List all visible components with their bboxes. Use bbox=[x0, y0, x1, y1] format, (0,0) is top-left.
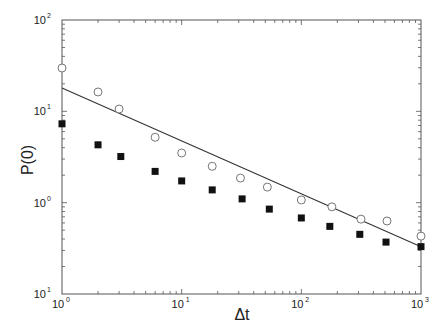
x-tick-label: 10 bbox=[172, 298, 184, 310]
data-point-circle bbox=[297, 196, 305, 204]
x-tick-exponent: 0 bbox=[66, 296, 70, 303]
data-point-circle bbox=[236, 174, 244, 182]
data-point-square bbox=[418, 243, 425, 250]
y-tick-label: 10 bbox=[34, 288, 46, 300]
y-tick-label: 10 bbox=[34, 105, 46, 117]
y-tick-exponent: 1 bbox=[47, 103, 51, 110]
data-point-square bbox=[266, 206, 273, 213]
data-point-circle bbox=[417, 232, 425, 240]
chart: 100101102103 102101100101 Δt P(0) bbox=[0, 0, 444, 334]
x-axis-title: Δt bbox=[234, 306, 250, 323]
x-tick-exponent: 3 bbox=[425, 296, 429, 303]
data-point-square bbox=[178, 177, 185, 184]
data-point-circle bbox=[357, 215, 365, 223]
data-point-circle bbox=[151, 133, 159, 141]
y-tick-labels: 102101100101 bbox=[34, 12, 51, 300]
data-point-square bbox=[209, 186, 216, 193]
x-tick-label: 10 bbox=[291, 298, 303, 310]
data-point-circle bbox=[58, 64, 66, 72]
data-point-square bbox=[59, 120, 66, 127]
y-axis-title: P(0) bbox=[19, 145, 36, 175]
x-tick-label: 10 bbox=[52, 298, 64, 310]
axis-ticks bbox=[62, 20, 421, 294]
data-point-square bbox=[117, 153, 124, 160]
y-tick-exponent: 0 bbox=[47, 195, 51, 202]
plot-frame bbox=[62, 20, 421, 294]
series-open-circles bbox=[58, 64, 425, 240]
data-point-square bbox=[383, 239, 390, 246]
data-point-square bbox=[239, 195, 246, 202]
data-point-circle bbox=[94, 88, 102, 96]
data-point-circle bbox=[383, 217, 391, 225]
data-point-circle bbox=[263, 183, 271, 191]
data-point-square bbox=[95, 141, 102, 148]
data-point-circle bbox=[328, 203, 336, 211]
data-point-square bbox=[326, 223, 333, 230]
y-tick-label: 10 bbox=[34, 197, 46, 209]
series-filled-squares bbox=[59, 120, 425, 250]
data-point-circle bbox=[208, 162, 216, 170]
data-point-circle bbox=[115, 105, 123, 113]
y-tick-exponent: 2 bbox=[47, 12, 51, 19]
x-tick-exponent: 1 bbox=[186, 296, 190, 303]
data-point-square bbox=[152, 168, 159, 175]
data-point-square bbox=[356, 231, 363, 238]
x-tick-label: 10 bbox=[411, 298, 423, 310]
x-tick-exponent: 2 bbox=[305, 296, 309, 303]
plot-border bbox=[62, 20, 421, 294]
data-point-circle bbox=[178, 149, 186, 157]
y-tick-exponent: 1 bbox=[47, 286, 51, 293]
y-tick-label: 10 bbox=[34, 14, 46, 26]
data-point-square bbox=[298, 214, 305, 221]
